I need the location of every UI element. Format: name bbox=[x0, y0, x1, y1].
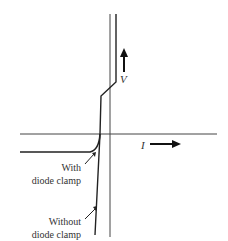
v-axis-label: V bbox=[120, 73, 128, 85]
curve-with-clamp bbox=[20, 134, 100, 152]
curve-without-clamp bbox=[95, 14, 116, 235]
with-clamp-leader bbox=[85, 154, 94, 164]
with-clamp-label-line2: diode clamp bbox=[32, 175, 81, 186]
iv-characteristic-diagram: V I With diode clamp Without diode clamp bbox=[0, 0, 228, 241]
i-axis-label: I bbox=[140, 139, 146, 151]
without-clamp-label-line2: diode clamp bbox=[32, 229, 81, 240]
with-clamp-label-line1: With bbox=[61, 162, 81, 173]
i-arrow-head-icon bbox=[172, 140, 181, 148]
v-arrow-head-icon bbox=[120, 48, 128, 57]
without-clamp-leader bbox=[85, 209, 95, 219]
without-clamp-label-line1: Without bbox=[49, 216, 82, 227]
